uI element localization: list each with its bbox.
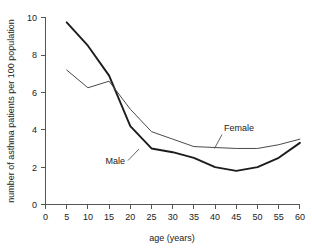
y-tick-label: 8 [32, 50, 37, 60]
y-tick-label: 6 [32, 88, 37, 98]
series-line-male [67, 22, 300, 171]
female-leader-line [215, 135, 223, 149]
x-tick-label: 40 [210, 212, 220, 222]
x-tick-label: 55 [274, 212, 284, 222]
x-tick-label: 25 [146, 212, 156, 222]
y-axis-tick-labels: 0 2 4 6 8 10 [27, 13, 37, 210]
y-tick-label: 4 [32, 125, 37, 135]
x-axis-tick-labels: 0 5 10 15 20 25 30 35 40 45 50 55 60 [43, 212, 305, 222]
x-tick-label: 60 [295, 212, 305, 222]
x-tick-label: 15 [104, 212, 114, 222]
asthma-prevalence-chart: 0 2 4 6 8 10 0 5 10 15 [0, 0, 312, 252]
y-axis-title: number of asthma patients per 100 popula… [6, 19, 16, 203]
y-tick-label: 0 [32, 200, 37, 210]
x-tick-label: 45 [231, 212, 241, 222]
y-axis-ticks [41, 18, 46, 205]
chart-canvas: 0 2 4 6 8 10 0 5 10 15 [0, 0, 312, 252]
male-leader-line [128, 149, 139, 161]
x-tick-label: 30 [168, 212, 178, 222]
series-annotation-female: Female [224, 123, 254, 133]
series-annotation-male: Male [105, 156, 125, 166]
x-tick-label: 5 [64, 212, 69, 222]
y-tick-label: 10 [27, 13, 37, 23]
x-axis-title: age (years) [149, 233, 195, 243]
x-tick-label: 35 [189, 212, 199, 222]
x-tick-label: 50 [252, 212, 262, 222]
x-axis-ticks [46, 205, 300, 210]
x-tick-label: 0 [43, 212, 48, 222]
y-tick-label: 2 [32, 163, 37, 173]
x-tick-label: 20 [125, 212, 135, 222]
x-tick-label: 10 [83, 212, 93, 222]
series-line-female [67, 70, 300, 148]
